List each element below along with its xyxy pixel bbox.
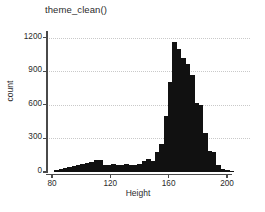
gridline	[47, 71, 250, 72]
y-axis-tick-label: 900	[2, 65, 42, 74]
y-axis-tick	[43, 37, 47, 38]
plot-area	[47, 32, 250, 172]
y-axis-tick-label: 1200	[2, 32, 42, 41]
y-axis-tick-label: 0	[2, 166, 42, 175]
y-axis-tick	[43, 138, 47, 139]
chart-title: theme_clean()	[45, 4, 107, 15]
chart-figure: theme_clean() count Height 0300600900120…	[0, 0, 265, 212]
y-axis-tick	[43, 171, 47, 172]
gridline	[47, 105, 250, 106]
x-axis-tick	[110, 174, 111, 178]
y-axis-line	[46, 31, 48, 173]
gridline	[47, 38, 250, 39]
x-axis-tick-label: 120	[93, 179, 127, 188]
y-axis-tick-label: 300	[2, 132, 42, 141]
x-axis-tick-label: 160	[152, 179, 186, 188]
x-axis-tick	[168, 174, 169, 178]
y-axis-tick	[43, 71, 47, 72]
x-axis-tick	[226, 174, 227, 178]
y-axis-tick-label: 600	[2, 99, 42, 108]
x-axis-line	[46, 174, 232, 175]
y-axis-tick	[43, 104, 47, 105]
x-axis-tick-label: 200	[210, 179, 244, 188]
histogram-bar	[229, 171, 234, 172]
x-axis-tick	[51, 174, 52, 178]
x-axis-title: Height	[47, 188, 229, 198]
gridline	[47, 138, 250, 139]
x-axis-tick-label: 80	[35, 179, 69, 188]
